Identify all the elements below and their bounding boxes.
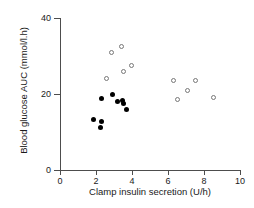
y-axis-line (60, 18, 61, 170)
y-axis-tick (54, 18, 60, 19)
x-axis-tick (240, 170, 241, 175)
x-axis-tick-label: 2 (86, 176, 106, 186)
x-axis-tick (168, 170, 169, 175)
data-point (120, 98, 125, 103)
x-axis-tick-label: 4 (122, 176, 142, 186)
data-point (115, 99, 120, 104)
data-point (91, 117, 96, 122)
data-point (99, 96, 104, 101)
x-axis-tick (60, 170, 61, 175)
y-axis-title: Blood glucose AUC (mmol/l.h) (18, 16, 29, 166)
y-axis-tick-label: 0 (27, 165, 51, 175)
data-point (119, 44, 124, 49)
scatter-plot-figure: 02040 0246810 Blood glucose AUC (mmol/l.… (0, 0, 254, 208)
data-point (104, 76, 109, 81)
data-point (185, 88, 190, 93)
data-point (175, 97, 180, 102)
x-axis-tick (96, 170, 97, 175)
y-axis-tick-label: 40 (27, 13, 51, 23)
x-axis-tick (132, 170, 133, 175)
x-axis-tick-label: 6 (158, 176, 178, 186)
x-axis-tick-label: 10 (230, 176, 250, 186)
data-point (121, 101, 126, 106)
data-point (211, 95, 216, 100)
data-point (171, 78, 176, 83)
data-point (129, 63, 134, 68)
y-axis-tick-label: 20 (27, 89, 51, 99)
x-axis-line (60, 170, 240, 171)
x-axis-tick-label: 8 (194, 176, 214, 186)
x-axis-tick (204, 170, 205, 175)
data-point (99, 119, 104, 124)
data-point (193, 78, 198, 83)
x-axis-tick-label: 0 (50, 176, 70, 186)
data-point (109, 50, 114, 55)
data-point (124, 107, 129, 112)
data-point (110, 92, 115, 97)
x-axis-title: Clamp insulin secretion (U/h) (60, 186, 240, 197)
data-point (121, 69, 126, 74)
y-axis-tick (54, 94, 60, 95)
data-point (98, 125, 103, 130)
